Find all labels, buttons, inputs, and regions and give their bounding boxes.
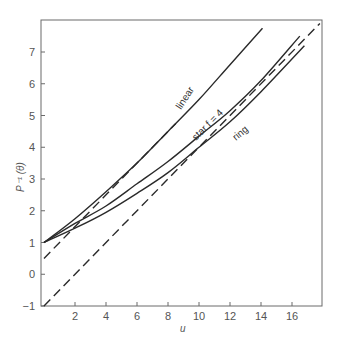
x-tick-label: 14 <box>255 310 267 322</box>
plot-frame <box>41 20 322 306</box>
y-tick-label: 4 <box>29 141 35 153</box>
y-tick-label: 6 <box>29 78 35 90</box>
x-axis-ticks: 246810121416 <box>72 302 298 322</box>
y-tick-label: 1 <box>29 237 35 249</box>
y-axis-label: P⁻¹ (θ) <box>15 162 26 192</box>
plot-border <box>41 20 322 306</box>
x-tick-label: 8 <box>165 310 171 322</box>
x-axis-label: u <box>180 323 186 334</box>
label-ring: ring <box>230 123 250 142</box>
x-tick-label: 2 <box>72 310 78 322</box>
series-group <box>44 23 320 306</box>
series-linear <box>44 28 263 242</box>
x-tick-label: 10 <box>193 310 205 322</box>
y-tick-label: 7 <box>29 46 35 58</box>
label-linear: linear <box>173 84 196 111</box>
y-tick-label: 2 <box>29 205 35 217</box>
series-star-f-4 <box>44 36 300 242</box>
y-tick-label: 3 <box>29 173 35 185</box>
y-tick-label: −1 <box>22 300 35 312</box>
chart: −101234567 246810121416 linear star f = … <box>0 0 338 348</box>
y-tick-label: 5 <box>29 110 35 122</box>
x-tick-label: 4 <box>103 310 109 322</box>
y-tick-label: 0 <box>29 268 35 280</box>
x-tick-label: 16 <box>286 310 298 322</box>
label-star: star f = 4 <box>190 107 226 143</box>
series-asymptote-1-u-2 <box>44 23 320 306</box>
x-tick-label: 12 <box>224 310 236 322</box>
x-tick-label: 6 <box>134 310 140 322</box>
